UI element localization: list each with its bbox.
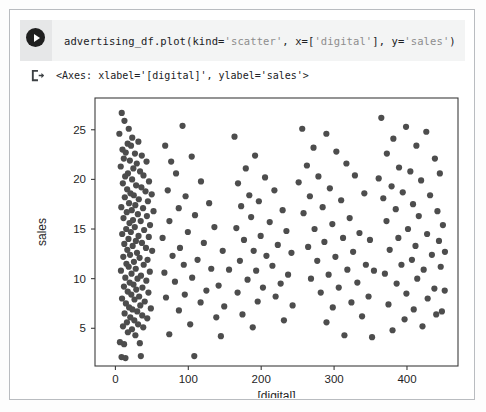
scatter-point <box>135 321 141 327</box>
scatter-point <box>271 187 277 193</box>
scatter-point <box>116 131 122 137</box>
scatter-point <box>119 295 125 301</box>
scatter-point <box>383 218 389 224</box>
scatter-point <box>148 305 154 311</box>
scatter-point <box>125 329 131 335</box>
code-string-digital: 'digital' <box>314 35 372 47</box>
scatter-point <box>132 202 138 208</box>
scatter-point <box>122 355 128 361</box>
scatter-point <box>216 283 222 289</box>
scatter-point <box>333 149 339 155</box>
scatter-point <box>359 313 365 319</box>
scatter-point <box>299 126 305 132</box>
scatter-point <box>308 276 314 282</box>
scatter-point <box>128 143 134 149</box>
scatter-point <box>126 264 132 270</box>
scatter-point <box>176 307 182 313</box>
scatter-point <box>198 178 204 184</box>
scatter-point <box>129 135 135 141</box>
scatter-point <box>401 316 407 322</box>
scatter-point <box>412 243 418 249</box>
scatter-point <box>318 289 324 295</box>
scatter-point <box>361 190 367 196</box>
scatter-point <box>438 264 444 270</box>
scatter-point <box>310 145 316 151</box>
scatter-point <box>211 224 217 230</box>
scatter-point <box>149 191 155 197</box>
scatter-point <box>327 185 333 191</box>
scatter-point <box>143 158 149 164</box>
scatter-point <box>285 272 291 278</box>
scatter-point <box>389 327 395 333</box>
scatter-point <box>138 353 144 359</box>
scatter-point <box>385 301 391 307</box>
scatter-point <box>144 257 150 263</box>
scatter-point <box>123 149 129 155</box>
scatter-point <box>253 268 259 274</box>
scatter-point <box>252 152 258 158</box>
scatter-point <box>173 170 179 176</box>
run-cell-button[interactable] <box>26 28 45 47</box>
scatter-point <box>169 253 175 259</box>
scatter-point <box>280 207 286 213</box>
scatter-point <box>273 293 279 299</box>
code-editor[interactable]: advertising_df.plot(kind='scatter', x=['… <box>64 20 456 61</box>
scatter-point <box>405 226 411 232</box>
scatter-point <box>396 164 402 170</box>
scatter-point <box>389 183 395 189</box>
scatter-point <box>165 187 171 193</box>
scatter-point <box>278 281 284 287</box>
scatter-point <box>323 131 329 137</box>
scatter-point <box>146 234 152 240</box>
x-tick-label: 0 <box>112 373 118 385</box>
scatter-point <box>141 262 147 268</box>
scatter-point <box>134 276 140 282</box>
scatter-point <box>139 240 145 246</box>
scatter-point <box>131 192 137 198</box>
scatter-point <box>411 306 417 312</box>
scatter-point <box>384 150 390 156</box>
scatter-point <box>142 188 148 194</box>
scatter-point <box>414 276 420 282</box>
code-segment-y: ], y= <box>372 35 404 47</box>
scatter-point <box>163 294 169 300</box>
scatter-point <box>140 205 146 211</box>
scatter-point <box>288 250 294 256</box>
output-repr-text: <Axes: xlabel='[digital]', ylabel='sales… <box>56 66 309 84</box>
scatter-point <box>159 235 165 241</box>
scatter-point <box>121 310 127 316</box>
y-tick-label: 5 <box>80 322 86 334</box>
scatter-point <box>121 341 127 347</box>
scatter-point <box>407 168 413 174</box>
scatter-point <box>139 284 145 290</box>
scatter-point <box>133 266 139 272</box>
scatter-point <box>213 314 219 320</box>
notebook-card: advertising_df.plot(kind='scatter', x=['… <box>9 9 475 400</box>
y-axis-label: sales <box>35 218 49 246</box>
scatter-point <box>378 115 384 121</box>
scatter-point <box>168 158 174 164</box>
screenshot-root: advertising_df.plot(kind='scatter', x=['… <box>0 0 486 412</box>
scatter-point <box>433 311 439 317</box>
scatter-point <box>146 178 152 184</box>
scatter-point <box>421 267 427 273</box>
code-cell[interactable]: advertising_df.plot(kind='scatter', x=['… <box>20 20 465 61</box>
scatter-plot: 0100200300400510152025[digital]sales <box>20 90 464 398</box>
scatter-point <box>119 231 125 237</box>
scatter-point <box>263 253 269 259</box>
scatter-point <box>206 200 212 206</box>
scatter-point <box>119 110 125 116</box>
scatter-point <box>363 262 369 268</box>
scatter-point <box>395 235 401 241</box>
scatter-point <box>354 280 360 286</box>
x-axis-label: [digital] <box>257 389 295 398</box>
scatter-point <box>424 231 430 237</box>
scatter-point <box>132 332 138 338</box>
scatter-point <box>233 225 239 231</box>
scatter-point <box>118 268 124 274</box>
scatter-point <box>341 332 347 338</box>
scatter-point <box>131 296 137 302</box>
scatter-point <box>244 277 250 283</box>
scatter-point <box>149 248 155 254</box>
scatter-point <box>140 172 146 178</box>
